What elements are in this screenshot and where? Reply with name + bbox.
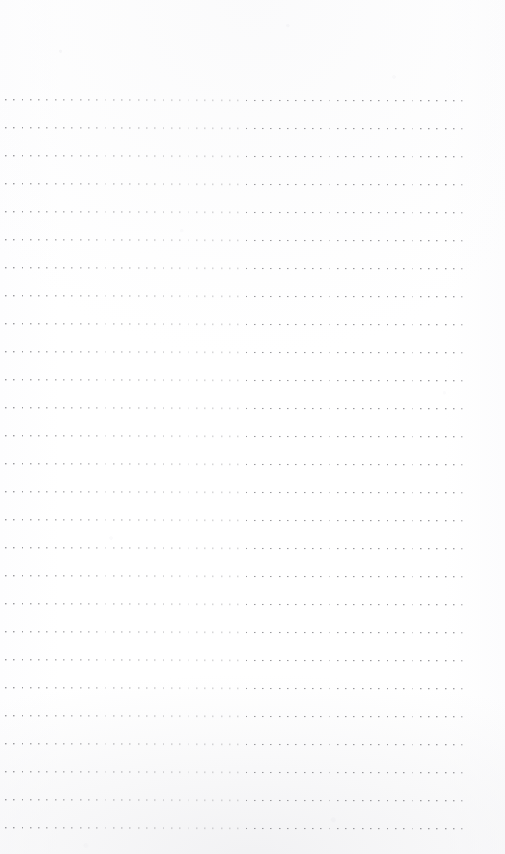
dotted-rule-line [5, 799, 470, 802]
dotted-rule-line [5, 547, 470, 550]
dotted-rule-line [5, 211, 470, 214]
dotted-rule-line [5, 491, 470, 494]
dotted-rule-line [5, 183, 470, 186]
dotted-rule-line [5, 351, 470, 354]
dotted-rule-line [5, 575, 470, 578]
dotted-rule-line [5, 715, 470, 718]
dotted-rule-line [5, 267, 470, 270]
dotted-rule-line [5, 435, 470, 438]
dotted-rule-line [5, 463, 470, 466]
dotted-rule-line [5, 323, 470, 326]
dotted-rules-layer [0, 0, 505, 854]
notebook-page [0, 0, 505, 854]
dotted-rule-line [5, 239, 470, 242]
dotted-rule-line [5, 155, 470, 158]
dotted-rule-line [5, 827, 470, 830]
dotted-rule-line [5, 743, 470, 746]
dotted-rule-line [5, 379, 470, 382]
dotted-rule-line [5, 99, 470, 102]
dotted-rule-line [5, 519, 470, 522]
dotted-rule-line [5, 603, 470, 606]
dotted-rule-line [5, 127, 470, 130]
dotted-rule-line [5, 407, 470, 410]
dotted-rule-line [5, 295, 470, 298]
dotted-rule-line [5, 631, 470, 634]
dotted-rule-line [5, 659, 470, 662]
dotted-rule-line [5, 771, 470, 774]
dotted-rule-line [5, 687, 470, 690]
